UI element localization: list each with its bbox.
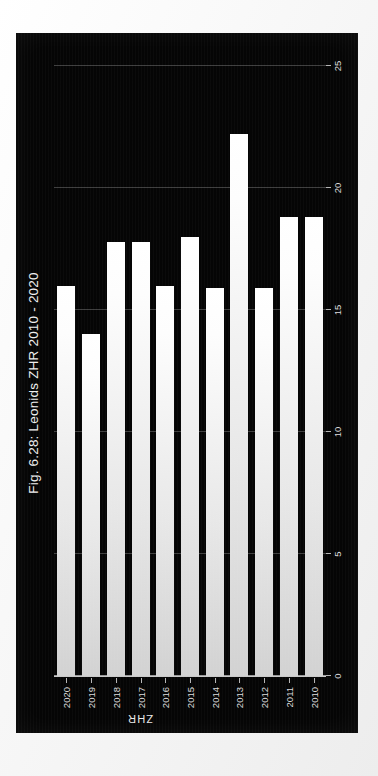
- category-tick-mark-2015: [190, 678, 191, 683]
- value-tick-label-25: 25: [332, 61, 343, 72]
- gridline-25: [54, 65, 326, 66]
- rotated-chart-wrapper: Fig. 6.28: Leonids ZHR 2010 - 2020 20102…: [16, 33, 358, 733]
- category-tick-mark-2016: [165, 678, 166, 683]
- category-tick-mark-2019: [91, 678, 92, 683]
- value-tick-mark-0: [326, 675, 331, 676]
- value-tick-mark-15: [326, 309, 331, 310]
- category-tick-mark-2018: [116, 678, 117, 683]
- category-tick-mark-2020: [66, 678, 67, 683]
- category-label-2010: 2010: [308, 687, 319, 708]
- bar-chart-figure: Fig. 6.28: Leonids ZHR 2010 - 2020 20102…: [16, 33, 358, 733]
- plot-area: [54, 66, 326, 676]
- value-tick-mark-25: [326, 65, 331, 66]
- value-tick-label-10: 10: [332, 427, 343, 438]
- value-axis-title: ZHR: [80, 713, 200, 725]
- value-tick-label-15: 15: [332, 305, 343, 316]
- value-tick-label-5: 5: [332, 551, 343, 556]
- bar-2017[interactable]: [132, 242, 150, 676]
- value-tick-label-20: 20: [332, 183, 343, 194]
- category-label-2012: 2012: [259, 687, 270, 708]
- category-label-2019: 2019: [86, 687, 97, 708]
- value-tick-mark-20: [326, 187, 331, 188]
- bar-2011[interactable]: [280, 217, 298, 676]
- bar-2019[interactable]: [82, 334, 100, 676]
- category-tick-mark-2012: [264, 678, 265, 683]
- chart-title: Fig. 6.28: Leonids ZHR 2010 - 2020: [26, 33, 41, 733]
- category-tick-mark-2010: [314, 678, 315, 683]
- gridline-20: [54, 187, 326, 188]
- value-tick-label-0: 0: [332, 673, 343, 678]
- category-label-2015: 2015: [185, 687, 196, 708]
- bar-2016[interactable]: [156, 286, 174, 676]
- category-tick-mark-2014: [215, 678, 216, 683]
- category-tick-mark-2011: [289, 678, 290, 683]
- category-label-2016: 2016: [160, 687, 171, 708]
- category-tick-mark-2013: [239, 678, 240, 683]
- category-label-2011: 2011: [283, 687, 294, 707]
- bar-2018[interactable]: [107, 242, 125, 676]
- category-axis-line: [54, 676, 326, 677]
- category-label-2013: 2013: [234, 687, 245, 708]
- bar-2012[interactable]: [255, 288, 273, 676]
- value-axis-ticks: 0510152025: [332, 66, 348, 676]
- category-label-2017: 2017: [135, 687, 146, 708]
- category-label-2018: 2018: [110, 687, 121, 708]
- value-tick-mark-10: [326, 431, 331, 432]
- bar-2013[interactable]: [230, 134, 248, 676]
- category-label-2020: 2020: [61, 687, 72, 708]
- category-tick-mark-2017: [141, 678, 142, 683]
- bar-2015[interactable]: [181, 237, 199, 676]
- bar-2020[interactable]: [57, 286, 75, 676]
- bar-2014[interactable]: [206, 288, 224, 676]
- category-label-2014: 2014: [209, 687, 220, 708]
- bar-2010[interactable]: [305, 217, 323, 676]
- value-tick-mark-5: [326, 553, 331, 554]
- screenshot-page: Fig. 6.28: Leonids ZHR 2010 - 2020 20102…: [0, 0, 378, 776]
